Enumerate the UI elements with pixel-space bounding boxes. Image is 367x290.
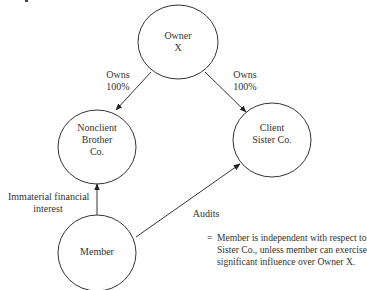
conclusion-text: Member is independent with respect to Si…: [217, 232, 367, 268]
owner-node-label: Owner X: [148, 30, 208, 54]
conclusion-note: = Member is independent with respect to …: [207, 232, 365, 272]
member-sister-edge-label: Audits: [186, 208, 226, 220]
member-brother-edge-label: Immaterial financial interest: [8, 191, 88, 215]
edge-member-sister: [136, 164, 240, 237]
member-node-label: Member: [62, 246, 132, 258]
brother-node-label: Nonclient Brother Co.: [62, 122, 132, 158]
owner-sister-edge-label: Owns 100%: [225, 69, 265, 93]
owner-brother-edge-label: Owns 100%: [98, 69, 138, 93]
equals-sign: =: [207, 232, 212, 244]
sister-node-label: Client Sister Co.: [237, 122, 307, 146]
